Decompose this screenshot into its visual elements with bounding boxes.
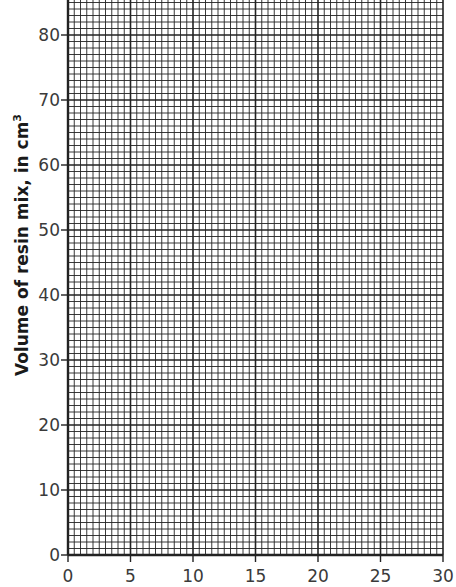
y-tick-label: 50 xyxy=(38,220,60,240)
graph-paper-chart: 051015202530 01020304050607080 Volume of… xyxy=(0,0,456,587)
y-axis-label-superscript: 3 xyxy=(11,114,24,122)
y-tick-label: 40 xyxy=(38,285,60,305)
y-tick-label: 0 xyxy=(49,545,60,565)
y-tick-label: 60 xyxy=(38,155,60,175)
x-axis-ticks: 051015202530 xyxy=(63,555,454,586)
x-tick-label: 25 xyxy=(370,566,392,586)
x-tick-label: 5 xyxy=(125,566,136,586)
x-tick-label: 30 xyxy=(432,566,454,586)
y-tick-label: 30 xyxy=(38,350,60,370)
x-tick-label: 10 xyxy=(182,566,204,586)
x-tick-label: 15 xyxy=(245,566,267,586)
y-axis-label: Volume of resin mix, in cm3 xyxy=(11,114,32,376)
x-tick-label: 20 xyxy=(307,566,329,586)
y-axis-label-main: Volume of resin mix, in cm xyxy=(12,122,32,376)
x-tick-label: 0 xyxy=(63,566,74,586)
y-tick-label: 20 xyxy=(38,415,60,435)
y-axis-ticks: 01020304050607080 xyxy=(38,25,68,565)
y-tick-label: 10 xyxy=(38,480,60,500)
y-tick-label: 80 xyxy=(38,25,60,45)
y-tick-label: 70 xyxy=(38,90,60,110)
